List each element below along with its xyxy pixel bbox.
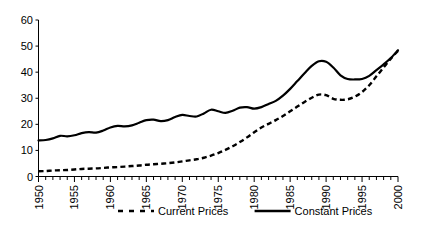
x-axis-tick-label: 1960 bbox=[104, 185, 116, 209]
y-axis-tick-label: 50 bbox=[21, 40, 33, 52]
chart-container: 0102030405060 19501955196019651970197519… bbox=[0, 0, 421, 234]
series-line-constant-prices bbox=[39, 50, 399, 140]
legend-label: Current Prices bbox=[158, 205, 229, 217]
x-axis-major-ticks bbox=[39, 177, 399, 183]
x-axis-tick-label: 1980 bbox=[248, 185, 260, 209]
y-axis-tick-label: 40 bbox=[21, 66, 33, 78]
y-axis-tick-label: 20 bbox=[21, 118, 33, 130]
legend-label: Constant Prices bbox=[295, 205, 373, 217]
y-axis-tick-label: 60 bbox=[21, 14, 33, 26]
x-axis-tick-label: 1950 bbox=[33, 185, 45, 209]
line-chart: 0102030405060 19501955196019651970197519… bbox=[0, 0, 421, 234]
chart-legend: Current PricesConstant Prices bbox=[118, 205, 373, 217]
y-axis-tick-label: 30 bbox=[21, 92, 33, 104]
x-axis-tick-label: 1955 bbox=[68, 185, 80, 209]
legend-item: Constant Prices bbox=[255, 205, 373, 217]
y-axis-tick-labels: 0102030405060 bbox=[21, 14, 33, 183]
legend-item: Current Prices bbox=[118, 205, 229, 217]
x-axis-tick-label: 2000 bbox=[392, 185, 404, 209]
y-axis-tick-label: 0 bbox=[27, 171, 33, 183]
y-axis-tick-label: 10 bbox=[21, 144, 33, 156]
x-axis-tick-label: 1965 bbox=[140, 185, 152, 209]
